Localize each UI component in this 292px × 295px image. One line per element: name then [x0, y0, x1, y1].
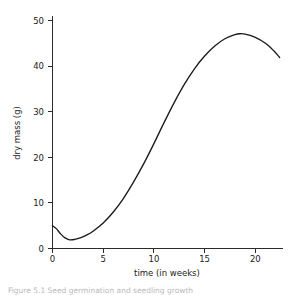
x-tick-label-10: 10: [148, 254, 159, 264]
y-tick-label-10: 10: [33, 198, 44, 208]
line-chart: 50 40 30 20 10 0 0 5 10 15 20 time (in w…: [0, 0, 292, 295]
x-tick-group: [53, 249, 256, 254]
y-axis-title: dry mass (g): [12, 106, 22, 160]
y-tick-group: [48, 21, 53, 249]
data-series-dry-mass: [53, 34, 280, 240]
y-tick-label-50: 50: [33, 16, 44, 26]
y-tick-label-30: 30: [33, 107, 44, 117]
x-tick-label-15: 15: [199, 254, 210, 264]
x-tick-label-0: 0: [50, 254, 55, 264]
x-tick-label-20: 20: [250, 254, 261, 264]
x-tick-label-5: 5: [100, 254, 105, 264]
figure-container: 50 40 30 20 10 0 0 5 10 15 20 time (in w…: [0, 0, 292, 295]
x-axis-title: time (in weeks): [134, 268, 200, 278]
y-tick-label-40: 40: [33, 61, 44, 71]
y-tick-label-0: 0: [39, 244, 44, 254]
figure-caption: Figure 5.1 Seed germination and seedling…: [8, 286, 288, 295]
y-tick-label-20: 20: [33, 153, 44, 163]
